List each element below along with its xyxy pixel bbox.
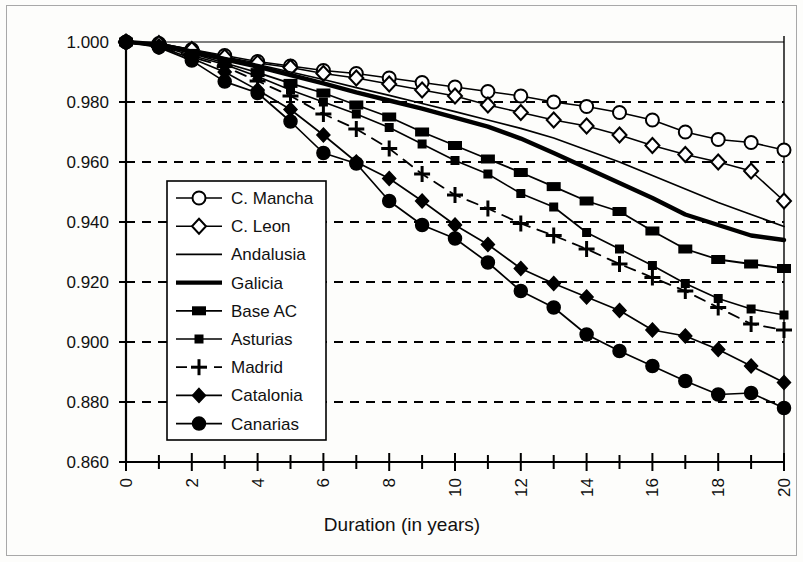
marker-filled-small-square (451, 156, 460, 165)
marker-filled-circle (613, 345, 626, 358)
marker-filled-circle (120, 36, 133, 49)
marker-open-circle (547, 96, 560, 109)
x-tick-label: 10 (446, 478, 465, 497)
chart-page: 0.8600.8800.9000.9200.9400.9600.9801.000… (0, 0, 803, 562)
marker-open-diamond (547, 113, 561, 128)
marker-open-circle (778, 144, 791, 157)
marker-filled-circle (449, 232, 462, 245)
marker-plus (348, 121, 364, 137)
marker-plus (480, 201, 496, 217)
y-tick-label: 0.980 (66, 93, 109, 112)
marker-filled-diamond (745, 359, 758, 373)
marker-filled-small-square (418, 140, 427, 149)
survival-curve-chart: 0.8600.8800.9000.9200.9400.9600.9801.000… (0, 0, 803, 562)
legend-marker-open-circle (193, 192, 206, 205)
y-tick-label: 0.960 (66, 153, 109, 172)
marker-filled-circle (712, 388, 725, 401)
marker-open-circle (712, 133, 725, 146)
legend-marker-filled-small-square (195, 335, 204, 344)
marker-filled-diamond (481, 238, 494, 252)
x-tick-label: 0 (117, 478, 136, 487)
marker-open-circle (514, 90, 527, 103)
marker-filled-diamond (712, 343, 725, 357)
marker-plus (743, 316, 759, 332)
marker-filled-circle (251, 87, 264, 100)
marker-filled-wide-square (711, 255, 725, 264)
legend-label: Asturias (231, 330, 292, 349)
marker-filled-small-square (648, 261, 657, 270)
y-tick-label: 0.920 (66, 273, 109, 292)
marker-filled-circle (317, 147, 330, 160)
marker-filled-circle (778, 402, 791, 415)
marker-plus (381, 141, 397, 157)
legend-label: Base AC (231, 302, 297, 321)
marker-filled-small-square (747, 305, 756, 314)
marker-open-circle (745, 136, 758, 149)
y-axis-tick-labels: 0.8600.8800.9000.9200.9400.9600.9801.000 (66, 33, 109, 472)
marker-filled-diamond (778, 376, 791, 390)
marker-filled-circle (185, 54, 198, 67)
marker-filled-circle (646, 360, 659, 373)
marker-open-diamond (711, 155, 725, 170)
marker-filled-wide-square (777, 264, 791, 273)
y-tick-label: 0.880 (66, 393, 109, 412)
marker-filled-wide-square (349, 101, 363, 110)
x-axis-tick-labels: 02468101214161820 (117, 478, 794, 497)
y-tick-label: 0.900 (66, 333, 109, 352)
legend-label: Catalonia (231, 386, 303, 405)
marker-plus (414, 166, 430, 182)
marker-plus (644, 270, 660, 286)
marker-filled-wide-square (580, 197, 594, 206)
x-tick-label: 4 (249, 478, 268, 487)
marker-filled-wide-square (481, 155, 495, 164)
y-tick-label: 0.940 (66, 213, 109, 232)
marker-plus (546, 228, 562, 244)
marker-open-circle (679, 126, 692, 139)
marker-open-circle (580, 100, 593, 113)
marker-open-diamond (580, 119, 594, 134)
marker-filled-diamond (416, 194, 429, 208)
legend-label: C. Leon (231, 217, 291, 236)
x-tick-label: 8 (380, 478, 399, 487)
marker-plus (513, 216, 529, 232)
marker-filled-circle (350, 157, 363, 170)
x-tick-label: 2 (183, 478, 202, 487)
marker-filled-circle (481, 256, 494, 269)
x-axis-title: Duration (in years) (324, 514, 480, 535)
marker-filled-circle (547, 301, 560, 314)
marker-filled-small-square (352, 110, 361, 119)
marker-filled-small-square (483, 170, 492, 179)
marker-filled-wide-square (613, 207, 627, 216)
marker-filled-circle (679, 375, 692, 388)
marker-plus (612, 256, 628, 272)
marker-filled-wide-square (678, 245, 692, 254)
marker-filled-diamond (646, 323, 659, 337)
marker-filled-wide-square (514, 168, 528, 177)
chart-legend[interactable]: C. ManchaC. LeonAndalusiaGaliciaBase ACA… (167, 181, 326, 440)
marker-filled-wide-square (382, 113, 396, 122)
marker-filled-circle (580, 328, 593, 341)
legend-marker-filled-wide-square (192, 306, 206, 315)
legend-label: Madrid (231, 358, 283, 377)
x-tick-label: 20 (775, 478, 794, 497)
marker-filled-wide-square (316, 89, 330, 98)
legend-label: Canarias (231, 415, 299, 434)
marker-filled-small-square (319, 98, 328, 107)
marker-open-circle (613, 106, 626, 119)
marker-open-diamond (613, 128, 627, 143)
marker-plus (710, 300, 726, 316)
x-tick-label: 18 (709, 478, 728, 497)
marker-filled-diamond (449, 218, 462, 232)
x-tick-label: 6 (314, 478, 333, 487)
marker-filled-circle (218, 75, 231, 88)
marker-filled-small-square (549, 203, 558, 212)
marker-filled-circle (416, 219, 429, 232)
marker-filled-small-square (385, 123, 394, 132)
legend-label: C. Mancha (231, 189, 314, 208)
marker-filled-wide-square (744, 260, 758, 269)
marker-filled-diamond (613, 304, 626, 318)
marker-open-diamond (645, 138, 659, 153)
legend-label: Andalusia (231, 245, 306, 264)
marker-filled-wide-square (448, 141, 462, 150)
marker-filled-small-square (780, 311, 789, 320)
